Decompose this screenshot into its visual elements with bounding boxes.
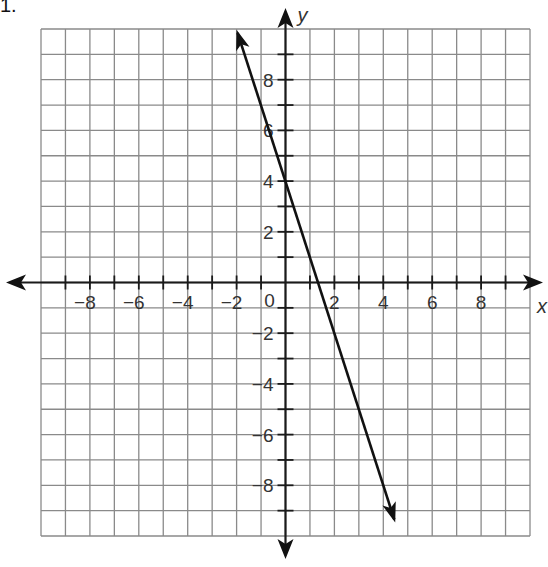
y-tick-label: 8: [263, 70, 274, 91]
x-tick-label: −8: [74, 292, 96, 313]
y-tick-label: −4: [252, 374, 274, 395]
x-axis-label: x: [536, 295, 548, 317]
coordinate-plane: −8−6−4−2024688642−2−4−6−8xy: [0, 0, 548, 567]
x-tick-label: −2: [221, 292, 243, 313]
x-tick-label: 6: [427, 292, 438, 313]
x-tick-label: 8: [476, 292, 487, 313]
y-tick-label: −8: [252, 475, 274, 496]
y-tick-label: −6: [252, 425, 274, 446]
y-axis-label: y: [296, 4, 309, 26]
y-tick-label: −2: [252, 323, 274, 344]
x-tick-label: 2: [329, 292, 340, 313]
x-tick-label: −6: [123, 292, 145, 313]
y-tick-label: 4: [263, 171, 274, 192]
plotted-line: [236, 30, 396, 522]
axes: [6, 8, 543, 559]
tick-labels: −8−6−4−2024688642−2−4−6−8xy: [74, 4, 548, 496]
x-tick-label: 4: [378, 292, 389, 313]
x-tick-label: −4: [172, 292, 194, 313]
y-tick-label: 2: [263, 222, 274, 243]
origin-label: 0: [264, 290, 275, 311]
